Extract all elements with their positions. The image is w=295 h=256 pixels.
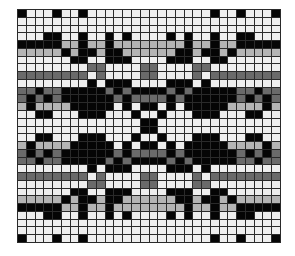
grid-cell (44, 181, 52, 188)
grid-cell (123, 212, 131, 219)
grid-cell (71, 227, 79, 234)
grid-cell (202, 80, 210, 87)
grid-cell (263, 103, 271, 110)
grid-cell (62, 80, 70, 87)
grid-cell (97, 158, 105, 165)
grid-cell (62, 212, 70, 219)
grid-cell (53, 119, 61, 126)
grid-cell (220, 158, 228, 165)
grid-cell (228, 57, 236, 64)
grid-cell (114, 33, 122, 40)
grid-cell (193, 33, 201, 40)
grid-cell (132, 33, 140, 40)
grid-cell (211, 72, 219, 79)
grid-cell (185, 142, 193, 149)
grid-cell (88, 134, 96, 141)
grid-cell (97, 150, 105, 157)
grid-cell (237, 57, 245, 64)
grid-cell (220, 119, 228, 126)
grid-cell (36, 95, 44, 102)
grid-cell (237, 88, 245, 95)
grid-cell (185, 57, 193, 64)
grid-cell (18, 150, 26, 157)
grid-cell (220, 127, 228, 134)
grid-cell (211, 212, 219, 219)
grid-cell (255, 41, 263, 48)
grid-cell (18, 189, 26, 196)
grid-cell (106, 189, 114, 196)
grid-cell (53, 72, 61, 79)
grid-cell (44, 212, 52, 219)
grid-cell (62, 111, 70, 118)
grid-cell (263, 150, 271, 157)
grid-cell (228, 134, 236, 141)
grid-cell (202, 33, 210, 40)
grid-cell (62, 235, 70, 242)
grid-cell (176, 49, 184, 56)
grid-cell (114, 150, 122, 157)
grid-cell (132, 64, 140, 71)
grid-cell (132, 150, 140, 157)
grid-cell (158, 119, 166, 126)
grid-cell (123, 227, 131, 234)
grid-cell (123, 181, 131, 188)
grid-cell (255, 196, 263, 203)
grid-cell (114, 18, 122, 25)
grid-cell (53, 220, 61, 227)
grid-cell (71, 111, 79, 118)
grid-cell (88, 227, 96, 234)
grid-cell (220, 95, 228, 102)
grid-cell (88, 57, 96, 64)
grid-cell (228, 165, 236, 172)
grid-cell (97, 49, 105, 56)
grid-cell (185, 111, 193, 118)
grid-cell (36, 142, 44, 149)
grid-cell (211, 173, 219, 180)
grid-cell (44, 196, 52, 203)
grid-cell (193, 72, 201, 79)
grid-cell (106, 220, 114, 227)
grid-cell (106, 119, 114, 126)
grid-cell (141, 26, 149, 33)
grid-cell (114, 10, 122, 17)
grid-cell (158, 26, 166, 33)
grid-cell (88, 18, 96, 25)
grid-cell (106, 49, 114, 56)
grid-cell (27, 158, 35, 165)
grid-cell (220, 142, 228, 149)
grid-cell (88, 212, 96, 219)
grid-cell (150, 134, 158, 141)
grid-cell (202, 220, 210, 227)
grid-cell (79, 88, 87, 95)
grid-cell (123, 220, 131, 227)
grid-cell (263, 127, 271, 134)
grid-cell (185, 235, 193, 242)
grid-cell (176, 127, 184, 134)
grid-cell (123, 235, 131, 242)
grid-cell (88, 64, 96, 71)
grid-cell (220, 150, 228, 157)
grid-cell (167, 64, 175, 71)
grid-cell (53, 57, 61, 64)
grid-cell (71, 33, 79, 40)
grid-cell (272, 26, 280, 33)
grid-cell (193, 142, 201, 149)
grid-cell (97, 220, 105, 227)
grid-cell (167, 189, 175, 196)
grid-cell (62, 41, 70, 48)
grid-cell (176, 103, 184, 110)
grid-cell (202, 158, 210, 165)
grid-cell (27, 220, 35, 227)
grid-cell (237, 72, 245, 79)
grid-cell (237, 10, 245, 17)
grid-cell (150, 33, 158, 40)
grid-cell (36, 18, 44, 25)
grid-cell (71, 95, 79, 102)
grid-cell (176, 33, 184, 40)
grid-cell (158, 227, 166, 234)
grid-cell (44, 158, 52, 165)
grid-cell (272, 189, 280, 196)
grid-cell (255, 189, 263, 196)
grid-cell (44, 173, 52, 180)
grid-cell (62, 26, 70, 33)
